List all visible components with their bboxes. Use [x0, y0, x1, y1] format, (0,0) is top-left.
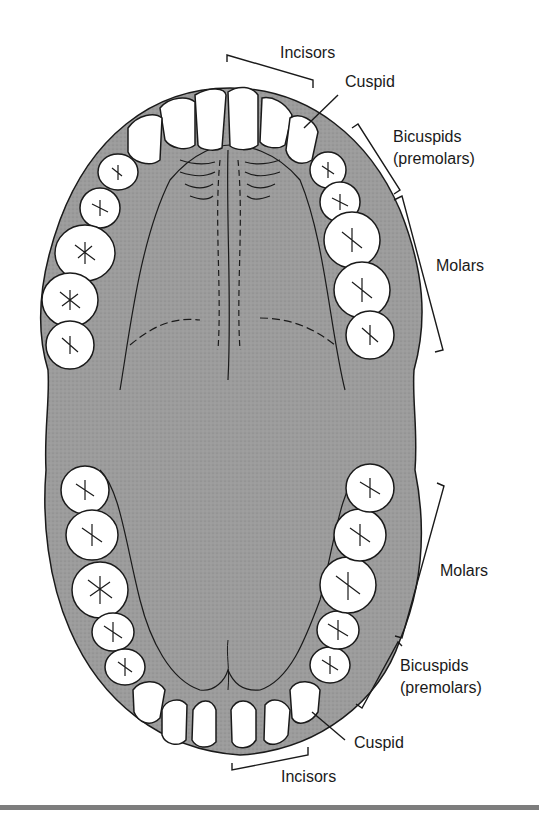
- lower-cuspid-left: [133, 682, 165, 723]
- bottom-divider: [0, 805, 539, 810]
- upper-cuspid-left: [128, 115, 162, 164]
- lower-cuspid-label: Cuspid: [354, 734, 404, 752]
- upper-cuspid-right: [286, 116, 318, 163]
- upper-lateral-incisor-left: [160, 98, 195, 149]
- upper-bicuspids-label: Bicuspids: [393, 128, 461, 146]
- lower-lateral-incisor-right: [264, 700, 290, 744]
- upper-cuspid-label: Cuspid: [345, 73, 395, 91]
- lower-molars-label: Molars: [440, 562, 488, 580]
- lower-bicuspids-label: Bicuspids: [400, 657, 468, 675]
- upper-incisors-label: Incisors: [280, 44, 335, 62]
- lower-lateral-incisor-left: [162, 700, 187, 744]
- dental-arch-diagram: [0, 0, 539, 829]
- upper-central-incisor-left: [195, 89, 226, 150]
- lower-central-incisor-left: [192, 701, 216, 747]
- lower-incisors-label: Incisors: [281, 768, 336, 786]
- upper-central-incisor-right: [228, 87, 258, 149]
- lower-premolars-label: (premolars): [400, 679, 482, 697]
- upper-molars-label: Molars: [436, 257, 484, 275]
- upper-premolars-label: (premolars): [393, 150, 475, 168]
- lower-central-incisor-right: [231, 701, 256, 748]
